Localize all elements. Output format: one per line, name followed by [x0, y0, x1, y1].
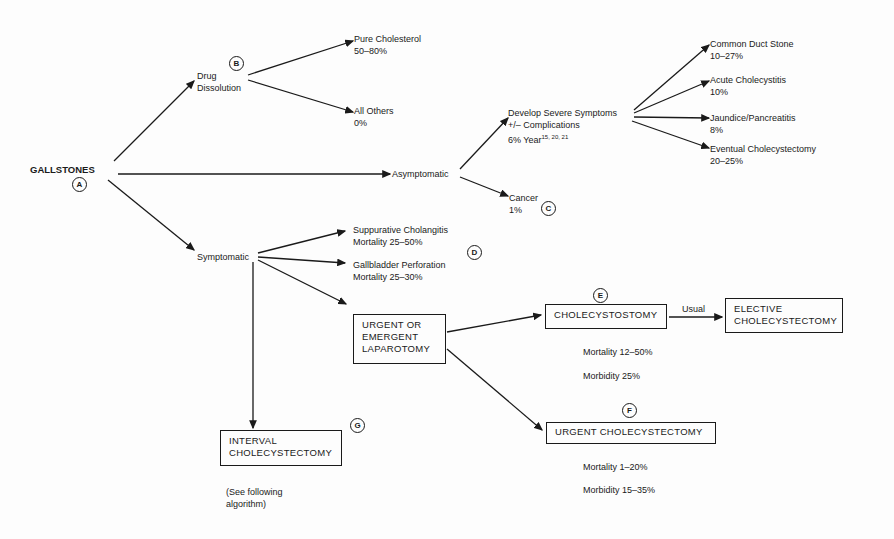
laparotomy-line3: LAPAROTOMY: [362, 343, 437, 355]
marker-e: E: [593, 288, 608, 303]
outcome-value-0: 10–27%: [710, 50, 743, 62]
marker-g: G: [350, 418, 365, 433]
all-others-value: 0%: [354, 117, 367, 129]
urgent-morbidity: Morbidity 15–35%: [583, 484, 655, 496]
outcome-label-1: Acute Cholecystitis: [710, 74, 786, 86]
elective-cholecystectomy-box: ELECTIVE CHOLECYSTECTOMY: [725, 298, 843, 333]
suppurative-value: Mortality 25–50%: [353, 236, 423, 248]
laparotomy-box: URGENT OR EMERGENT LAPAROTOMY: [353, 314, 446, 364]
all-others-label: All Others: [354, 105, 394, 117]
outcome-label-0: Common Duct Stone: [710, 38, 794, 50]
pure-cholesterol-value: 50–80%: [354, 45, 387, 57]
outcome-label-2: Jaundice/Pancreatitis: [710, 112, 796, 124]
outcome-value-3: 20–25%: [710, 155, 743, 167]
symptomatic-label: Symptomatic: [197, 251, 249, 263]
usual-label: Usual: [682, 303, 705, 315]
outcome-label-3: Eventual Cholecystectomy: [710, 143, 816, 155]
pure-cholesterol-label: Pure Cholesterol: [354, 33, 421, 45]
outcome-value-1: 10%: [710, 86, 728, 98]
cancer-value: 1%: [509, 204, 522, 216]
marker-d: D: [467, 245, 482, 260]
severe-symptoms-line1: Develop Severe Symptoms: [508, 107, 617, 119]
marker-a: A: [72, 177, 87, 192]
laparotomy-line2: EMERGENT: [362, 331, 437, 343]
elective-line1: ELECTIVE: [734, 303, 834, 315]
interval-line1: INTERVAL: [229, 435, 333, 447]
asymptomatic-label: Asymptomatic: [392, 168, 449, 180]
severe-symptoms-rate: 6% Year15, 20, 21: [508, 131, 568, 146]
root-gallstones-label: GALLSTONES: [30, 164, 95, 176]
laparotomy-line1: URGENT OR: [362, 319, 437, 331]
outcome-value-2: 8%: [710, 124, 723, 136]
marker-c: C: [541, 201, 556, 216]
urgent-cholecystectomy-box: URGENT CHOLECYSTECTOMY: [546, 422, 716, 444]
interval-cholecystectomy-box: INTERVAL CHOLECYSTECTOMY: [220, 430, 342, 466]
marker-b: B: [229, 56, 244, 71]
perforation-label: Gallbladder Perforation: [353, 259, 446, 271]
drug-dissolution-label-1: Drug: [197, 70, 217, 82]
severe-symptoms-rate-text: 6% Year: [508, 135, 542, 145]
interval-note-line2: algorithm): [226, 498, 266, 510]
urgent-mortality: Mortality 1–20%: [583, 461, 648, 473]
reference-superscript: 15, 20, 21: [542, 134, 569, 140]
perforation-value: Mortality 25–30%: [353, 271, 423, 283]
severe-symptoms-line2: +/– Complications: [508, 119, 580, 131]
drug-dissolution-label-2: Dissolution: [197, 82, 241, 94]
interval-note-line1: (See following: [226, 486, 283, 498]
cancer-label: Cancer: [509, 192, 538, 204]
cholecystostomy-morbidity: Morbidity 25%: [583, 370, 640, 382]
marker-f: F: [622, 403, 637, 418]
suppurative-label: Suppurative Cholangitis: [353, 224, 448, 236]
interval-line2: CHOLECYSTECTOMY: [229, 447, 333, 459]
cholecystostomy-mortality: Mortality 12–50%: [583, 346, 653, 358]
cholecystostomy-box: CHOLECYSTOSTOMY: [545, 304, 667, 329]
elective-line2: CHOLECYSTECTOMY: [734, 315, 834, 327]
